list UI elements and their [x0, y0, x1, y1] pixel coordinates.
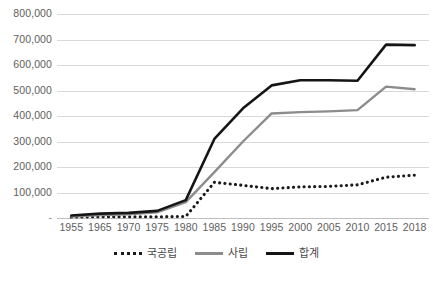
- legend-label: 사립: [228, 247, 248, 259]
- x-axis-tick-label: 1955: [59, 221, 83, 234]
- y-axis-tick-label: -: [49, 212, 53, 223]
- y-axis: -100,000200,000300,000400,000500,000600,…: [0, 0, 52, 232]
- x-axis-tick-label: 1995: [260, 221, 284, 234]
- x-axis-tick-label: 1970: [117, 221, 141, 234]
- legend-swatch-icon: [114, 248, 142, 258]
- x-axis: 1955196519701975198019851990199520002005…: [57, 221, 429, 237]
- legend-swatch-icon: [195, 248, 223, 258]
- x-axis-tick-label: 2018: [403, 221, 427, 234]
- legend-item-국공립[interactable]: 국공립: [114, 247, 177, 259]
- x-axis-tick-label: 2015: [374, 221, 398, 234]
- y-axis-tick-label: 600,000: [13, 59, 52, 70]
- x-axis-tick-label: 2005: [317, 221, 341, 234]
- y-axis-tick-label: 400,000: [13, 110, 52, 121]
- axis-baseline: [57, 218, 429, 219]
- x-axis-tick-label: 1965: [88, 221, 112, 234]
- y-axis-tick-label: 800,000: [13, 8, 52, 19]
- series-line-국공립: [71, 175, 414, 217]
- series-line-사립: [71, 87, 414, 217]
- x-axis-tick-label: 2010: [346, 221, 370, 234]
- x-axis-tick-label: 1990: [231, 221, 255, 234]
- y-axis-tick-label: 700,000: [13, 34, 52, 45]
- x-axis-tick-label: 1975: [145, 221, 169, 234]
- series-line-합계: [71, 45, 414, 216]
- x-axis-tick-label: 2000: [288, 221, 312, 234]
- legend-swatch-icon: [266, 248, 294, 258]
- y-axis-tick-label: 200,000: [13, 161, 52, 172]
- legend-item-사립[interactable]: 사립: [195, 247, 248, 259]
- y-axis-tick-label: 500,000: [13, 85, 52, 96]
- legend-label: 합계: [299, 247, 319, 259]
- x-axis-tick-label: 1980: [174, 221, 198, 234]
- y-axis-tick-label: 300,000: [13, 136, 52, 147]
- plot-area: [57, 14, 429, 218]
- series-layer: [57, 14, 429, 218]
- legend-label: 국공립: [147, 247, 177, 259]
- y-axis-tick-label: 100,000: [13, 187, 52, 198]
- legend-item-합계[interactable]: 합계: [266, 247, 319, 259]
- x-axis-tick-label: 1985: [202, 221, 226, 234]
- line-chart: -100,000200,000300,000400,000500,000600,…: [0, 0, 433, 282]
- chart-legend: 국공립사립합계: [0, 247, 433, 259]
